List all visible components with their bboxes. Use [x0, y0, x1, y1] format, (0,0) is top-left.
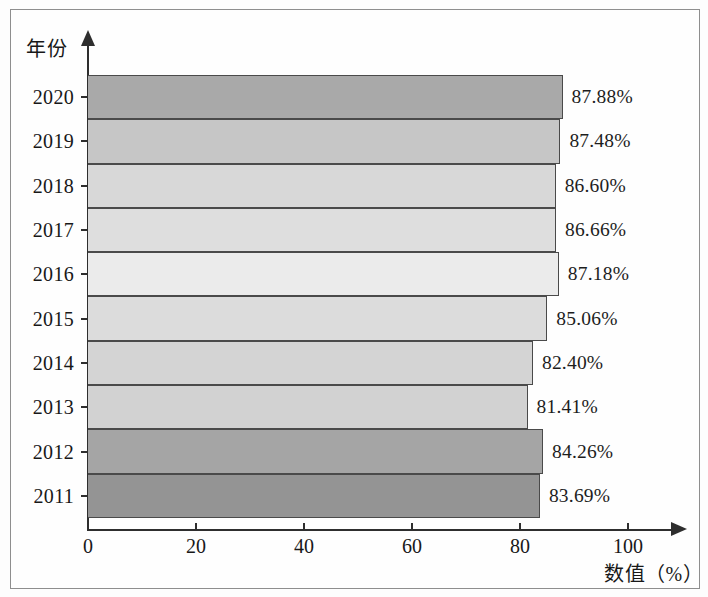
- x-tick-label-60: 60: [402, 535, 422, 558]
- bar-2015[interactable]: [88, 296, 547, 340]
- y-tick-label-text: 2017: [33, 219, 74, 242]
- x-tick-label-40: 40: [294, 535, 314, 558]
- x-tick-mark: [303, 523, 305, 530]
- bar-row: 87.88%: [88, 75, 632, 119]
- x-tick-label-80: 80: [510, 535, 530, 558]
- bar-value-label: 87.18%: [568, 263, 629, 285]
- y-tick-label-text: 2012: [33, 440, 74, 463]
- bar-2014[interactable]: [88, 341, 533, 385]
- bar-value-label: 82.40%: [542, 352, 603, 374]
- x-tick-mark: [627, 523, 629, 530]
- x-tick-label-100: 100: [613, 535, 643, 558]
- x-axis-arrow-icon: [671, 522, 687, 536]
- bar-value-label: 86.60%: [565, 175, 626, 197]
- plot-area: 87.88%87.48%86.60%86.66%87.18%85.06%82.4…: [88, 75, 632, 518]
- bar-2016[interactable]: [88, 252, 559, 296]
- x-tick-label-0: 0: [83, 535, 93, 558]
- bar-value-label: 87.48%: [569, 130, 630, 152]
- bar-value-label: 87.88%: [572, 86, 633, 108]
- bar-2020[interactable]: [88, 75, 563, 119]
- y-tick-label-text: 2019: [33, 130, 74, 153]
- bar-row: 83.69%: [88, 474, 632, 518]
- y-tick-label-text: 2014: [33, 351, 74, 374]
- bar-2013[interactable]: [88, 385, 528, 429]
- bar-row: 85.06%: [88, 296, 632, 340]
- bar-value-label: 83.69%: [549, 485, 610, 507]
- bar-chart-figure: 年份 2020201920182017201620152014201320122…: [0, 0, 708, 597]
- y-tick-label-text: 2018: [33, 174, 74, 197]
- bar-row: 86.60%: [88, 164, 632, 208]
- bar-2012[interactable]: [88, 429, 543, 473]
- bar-value-label: 84.26%: [552, 441, 613, 463]
- bar-row: 81.41%: [88, 385, 632, 429]
- bar-row: 87.48%: [88, 119, 632, 163]
- bar-row: 86.66%: [88, 208, 632, 252]
- bar-row: 82.40%: [88, 341, 632, 385]
- bar-2011[interactable]: [88, 474, 540, 518]
- x-tick-mark: [195, 523, 197, 530]
- y-tick-label-text: 2011: [34, 484, 74, 507]
- bar-2018[interactable]: [88, 164, 556, 208]
- y-tick-label-text: 2015: [33, 307, 74, 330]
- bar-2019[interactable]: [88, 119, 560, 163]
- bar-row: 84.26%: [88, 429, 632, 473]
- bar-row: 87.18%: [88, 252, 632, 296]
- x-axis-line: [88, 529, 673, 531]
- y-tick-label-text: 2013: [33, 396, 74, 419]
- y-axis-arrow-icon: [81, 30, 95, 46]
- x-tick-label-20: 20: [186, 535, 206, 558]
- bar-value-label: 85.06%: [556, 308, 617, 330]
- bar-value-label: 86.66%: [565, 219, 626, 241]
- x-tick-mark: [519, 523, 521, 530]
- bar-2017[interactable]: [88, 208, 556, 252]
- y-tick-label-text: 2020: [33, 86, 74, 109]
- x-tick-mark: [411, 523, 413, 530]
- y-axis-title: 年份: [26, 33, 68, 62]
- bar-value-label: 81.41%: [537, 396, 598, 418]
- y-tick-label-text: 2016: [33, 263, 74, 286]
- x-axis-title: 数值（%）: [604, 558, 703, 587]
